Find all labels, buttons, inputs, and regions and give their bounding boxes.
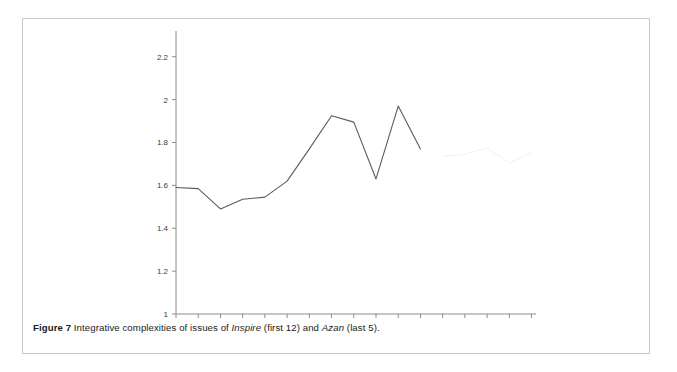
- figure-caption-text-2: (first 12) and: [261, 322, 322, 333]
- y-axis-tick-label: 1.8: [157, 138, 169, 147]
- y-axis-tick-label: 1.4: [157, 224, 169, 233]
- figure-card: 11.21.41.61.822.2 246810121416 Figure 7 …: [22, 18, 650, 354]
- figure-caption-text-3: (last 5).: [344, 322, 380, 333]
- y-axis-ticks: [172, 57, 176, 314]
- x-axis-group: 246810121416: [176, 314, 536, 319]
- figure-caption-emphasis-azan: Azan: [322, 322, 344, 333]
- y-axis-tick-label: 1.2: [157, 267, 169, 276]
- data-series-group: [176, 106, 532, 209]
- y-axis-tick-label: 2.2: [157, 53, 169, 62]
- chart-plot-area: 11.21.41.61.822.2 246810121416: [23, 19, 651, 319]
- figure-caption: Figure 7 Integrative complexities of iss…: [33, 321, 643, 334]
- y-axis-tick-label: 2: [164, 96, 169, 105]
- figure-caption-text-1: Integrative complexities of issues of: [71, 322, 232, 333]
- x-axis-ticks: [176, 314, 532, 318]
- y-axis-group: 11.21.41.61.822.2: [157, 31, 176, 319]
- series-line: [176, 106, 420, 209]
- figure-caption-emphasis-inspire: Inspire: [232, 322, 261, 333]
- figure-caption-label: Figure 7: [33, 322, 71, 333]
- y-axis-tick-labels: 11.21.41.61.822.2: [157, 53, 169, 319]
- y-axis-tick-label: 1: [164, 310, 169, 319]
- y-axis-tick-label: 1.6: [157, 181, 169, 190]
- series-line: [443, 148, 532, 163]
- line-chart: 11.21.41.61.822.2 246810121416: [23, 19, 651, 319]
